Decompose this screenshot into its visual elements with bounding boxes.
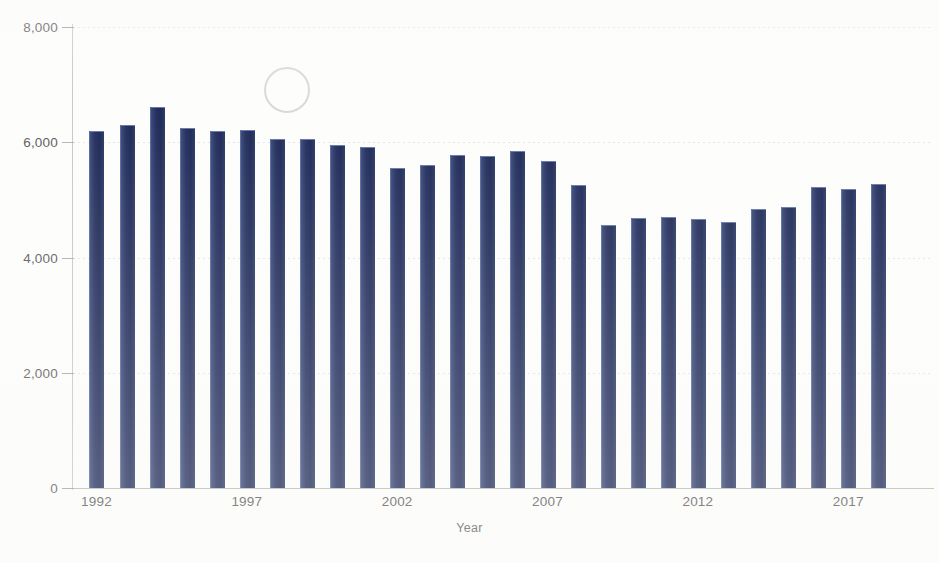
bar bbox=[751, 209, 766, 488]
bar bbox=[480, 156, 495, 488]
bar bbox=[721, 222, 736, 488]
bar bbox=[450, 155, 465, 488]
bar bbox=[330, 145, 345, 488]
y-axis-tick-label: 8,000 bbox=[2, 20, 58, 35]
y-axis-tick-label: 0 bbox=[2, 481, 58, 496]
y-axis-tick bbox=[62, 373, 74, 374]
x-axis-line bbox=[62, 488, 934, 489]
y-axis-tick bbox=[62, 142, 74, 143]
bar bbox=[631, 218, 646, 488]
y-axis-tick-label: 2,000 bbox=[2, 365, 58, 380]
x-axis-tick-label: 2017 bbox=[833, 494, 864, 509]
bar bbox=[871, 184, 886, 488]
bar bbox=[300, 139, 315, 488]
bar bbox=[841, 189, 856, 488]
y-axis-labels: 02,0004,0006,0008,000 bbox=[0, 0, 58, 563]
circle-annotation bbox=[264, 67, 310, 113]
chart-page: 02,0004,0006,0008,000 199219972002200720… bbox=[0, 0, 939, 563]
bar bbox=[360, 147, 375, 488]
y-axis-tick bbox=[62, 488, 74, 489]
bar bbox=[811, 187, 826, 488]
x-axis-title: Year bbox=[0, 521, 939, 535]
bar bbox=[781, 207, 796, 488]
bar bbox=[240, 130, 255, 488]
bar bbox=[180, 128, 195, 488]
bar bbox=[270, 139, 285, 488]
y-axis-tick bbox=[62, 258, 74, 259]
bar bbox=[150, 107, 165, 488]
x-axis-tick-label: 2002 bbox=[382, 494, 413, 509]
y-axis-tick-label: 4,000 bbox=[2, 250, 58, 265]
bar bbox=[89, 131, 104, 488]
bar bbox=[510, 151, 525, 488]
y-axis-tick-label: 6,000 bbox=[2, 135, 58, 150]
bar bbox=[571, 185, 586, 488]
x-axis-tick-label: 1997 bbox=[231, 494, 262, 509]
bar bbox=[691, 219, 706, 488]
x-axis-tick-label: 1992 bbox=[81, 494, 112, 509]
x-axis-labels: 199219972002200720122017 bbox=[73, 494, 933, 518]
bar-series bbox=[73, 27, 933, 488]
bar bbox=[420, 165, 435, 488]
bar bbox=[210, 131, 225, 488]
bar bbox=[541, 161, 556, 488]
y-axis-tick bbox=[62, 27, 74, 28]
bar bbox=[120, 125, 135, 488]
x-axis-tick-label: 2012 bbox=[682, 494, 713, 509]
x-axis-tick-label: 2007 bbox=[532, 494, 563, 509]
bar bbox=[661, 217, 676, 488]
bar bbox=[390, 168, 405, 488]
bar bbox=[601, 225, 616, 488]
